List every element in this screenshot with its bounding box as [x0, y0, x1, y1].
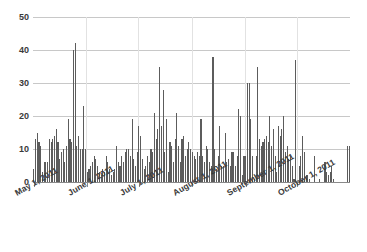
y-tick-label: 30	[19, 79, 29, 88]
y-tick-label: 50	[19, 13, 29, 22]
y-tick-label: 40	[19, 46, 29, 55]
bar	[240, 116, 241, 182]
bar	[295, 60, 296, 182]
bars-series	[33, 17, 350, 182]
y-axis: 01020304050	[0, 0, 29, 252]
bar	[349, 146, 350, 182]
bar-chart: 01020304050 May 1, 2011June 1, 2011July …	[0, 0, 367, 252]
plot-area	[33, 17, 350, 182]
y-tick-label: 10	[19, 145, 29, 154]
y-tick-label: 20	[19, 112, 29, 121]
